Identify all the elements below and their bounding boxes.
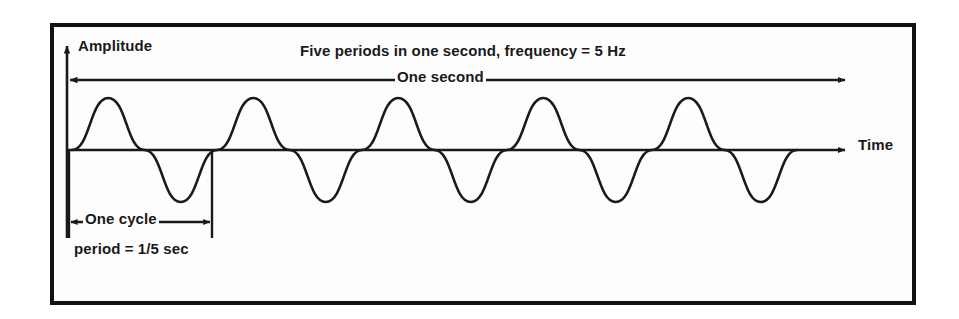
period-label: period = 1/5 sec [74, 240, 189, 257]
one-cycle-label: One cycle [83, 210, 159, 227]
figure-caption: Five periods in one second, frequency = … [300, 42, 626, 59]
time-axis-label: Time [858, 136, 893, 153]
one-second-label: One second [395, 68, 486, 85]
amplitude-axis-label: Amplitude [78, 37, 152, 54]
waveform-figure: Amplitude Five periods in one second, fr… [0, 0, 959, 319]
